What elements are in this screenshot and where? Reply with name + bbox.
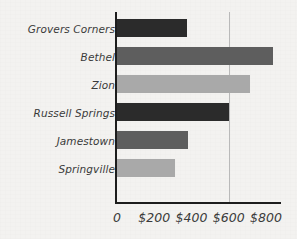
bar-zion [117, 75, 250, 93]
category-label: Jamestown [0, 135, 115, 147]
bar-russell-springs [117, 103, 229, 121]
y-axis-line [115, 12, 117, 204]
x-tick-label: $600 [213, 210, 245, 225]
bar-grovers-corners [117, 19, 187, 37]
x-tick-label: 0 [113, 210, 121, 225]
category-label: Zion [0, 79, 115, 91]
category-label: Bethel [0, 51, 115, 63]
x-tick-label: $200 [138, 210, 170, 225]
bar-springville [117, 159, 175, 177]
category-label: Russell Springs [0, 107, 115, 119]
category-label: Grovers Corners [0, 23, 115, 35]
x-axis-line [115, 202, 281, 204]
bar-jamestown [117, 131, 188, 149]
category-label: Springville [0, 163, 115, 175]
x-tick-label: $400 [176, 210, 208, 225]
bar-chart: Grovers Corners Bethel Zion Russell Spri… [0, 0, 297, 239]
x-tick-label: $800 [250, 210, 282, 225]
plot-area [117, 12, 280, 203]
bar-bethel [117, 47, 273, 65]
